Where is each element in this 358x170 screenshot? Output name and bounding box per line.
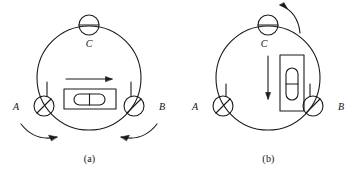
level-axis-arrow-a [66, 77, 112, 82]
panel-b-drawing: A B C [179, 0, 358, 170]
panel-a: A B C (a) [0, 0, 179, 170]
label-c-point-b: C [261, 38, 268, 49]
label-c-point-a: C [86, 38, 93, 49]
footscrew-a-a [34, 82, 54, 116]
footscrew-a-rotation-head-a [49, 135, 57, 140]
footscrew-b-a [124, 82, 144, 116]
panel-b: A B C (b) [179, 0, 358, 170]
footscrew-c-rotation-head-b [280, 3, 287, 9]
label-b-point-b: B [338, 101, 344, 112]
footscrew-b-slot-b [306, 99, 320, 113]
label-a-point-a: A [12, 101, 20, 112]
panel-a-drawing: A B C [0, 0, 179, 170]
label-b-point-a: B [159, 101, 165, 112]
level-axis-arrow-b [266, 56, 271, 99]
footscrew-b-rotation-head-a [121, 135, 129, 140]
footscrew-c-rotation-arc-b [280, 5, 300, 33]
label-a-point-b: A [191, 101, 199, 112]
footscrew-b-slot-a [127, 99, 141, 113]
footscrew-a-b [213, 84, 233, 116]
figure-container: A B C (a) [0, 0, 358, 170]
level-axis-arrow-head-a [106, 77, 113, 82]
level-axis-arrow-head-b [266, 93, 271, 100]
caption-panel-a: (a) [0, 153, 179, 164]
footscrew-b-b [303, 84, 323, 116]
bubble-level-body-b [280, 55, 304, 111]
footscrew-b-rotation-arrow-a [121, 124, 157, 141]
caption-panel-b: (b) [179, 153, 358, 164]
footscrew-c-a [79, 15, 99, 35]
footscrew-a-rotation-arrow-a [21, 124, 57, 141]
footscrew-c-b [258, 15, 278, 35]
